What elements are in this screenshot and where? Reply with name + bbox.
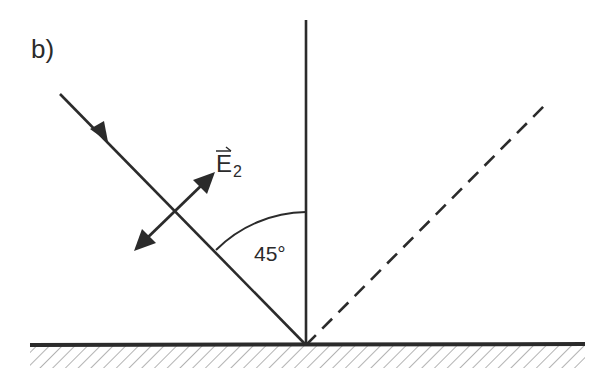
vector-arrow-icon [216, 144, 232, 154]
reflected-ray [306, 102, 548, 345]
field-subscript: 2 [233, 163, 242, 180]
surface-hatching [30, 346, 585, 368]
angle-label: 45° [254, 242, 286, 266]
field-vector-label: E2 [216, 150, 241, 178]
panel-label: b) [31, 34, 54, 65]
incident-arrowhead-icon [90, 121, 108, 142]
field-symbol: E [216, 150, 232, 177]
reflection-diagram [0, 0, 614, 376]
